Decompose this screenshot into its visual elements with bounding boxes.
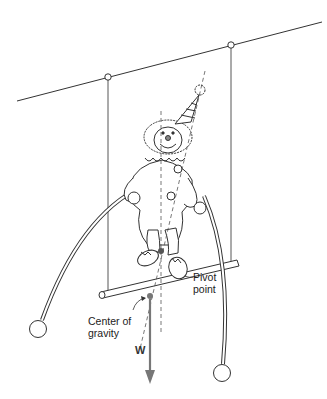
overhead-wire [17, 22, 322, 101]
cg-label-line2: gravity [88, 327, 131, 339]
pivot-point-label: Pivot point [193, 271, 216, 295]
pivot-label-line2: point [193, 283, 216, 295]
right-pulley [228, 42, 234, 48]
clown-figure [124, 85, 206, 281]
clown-balance-diagram [0, 0, 327, 399]
pivot-label-line1: Pivot [193, 271, 216, 283]
center-of-gravity-label: Center of gravity [88, 315, 131, 339]
center-of-gravity-dot [147, 293, 153, 299]
cg-label-line1: Center of [88, 315, 131, 327]
weight-label: W [135, 344, 145, 356]
pivot-point-dot [158, 248, 164, 254]
weight-arrow-head [145, 370, 155, 384]
left-pulley [105, 74, 111, 80]
